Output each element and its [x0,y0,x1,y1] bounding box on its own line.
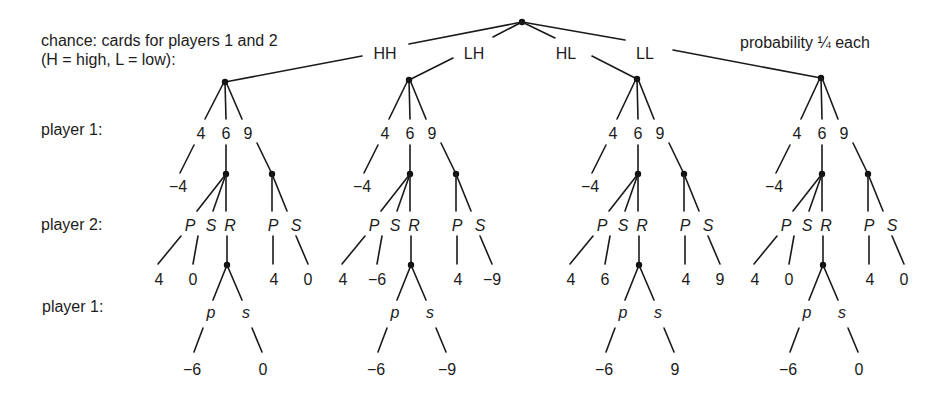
edge-9-S [684,174,699,211]
payoff-label: 6 [601,271,610,288]
move-label-R: R [408,217,420,234]
edge-p-payoff [606,328,615,352]
payoff-label: 4 [682,271,691,288]
move-label-P: P [369,217,380,234]
chance-label-line1: chance: cards for players 1 and 2 [41,32,278,49]
edge-S-payoff [789,236,794,264]
payoff-label: 4 [155,271,164,288]
move-label-P: P [452,217,463,234]
row-label-player1-bottom: player 1: [42,298,103,315]
payoff-label: −9 [483,271,501,288]
edge-P-payoff [158,236,181,264]
edge-P-payoff [570,236,593,264]
probability-label: probability ¼ each [740,34,870,51]
payoff-label: 4 [339,271,348,288]
edge-6-P [381,174,410,211]
move-label-P: P [185,217,196,234]
subtree-0: 469−4PSRPS4040ps−60 [155,79,313,378]
move-label-s: s [654,304,662,321]
payoff-label: −4 [169,178,187,195]
move-label-p: p [618,304,628,321]
edge-bid-6 [225,82,226,119]
game-tree-diagram: chance: cards for players 1 and 2 (H = h… [0,0,945,398]
move-label-4: 4 [793,125,802,142]
payoff-label: −6 [779,361,797,378]
move-label-6: 6 [222,125,231,142]
edge-bid-9 [822,78,838,119]
move-label-S: S [475,217,486,234]
edge-chance-ll-upper [522,22,625,40]
move-label-S: S [206,217,217,234]
payoff-label: −6 [595,361,613,378]
edge-bid-6 [821,78,822,119]
edge-P-payoff [754,236,777,264]
move-label-R: R [820,217,832,234]
move-label-S: S [390,217,401,234]
edge-6-S [397,174,410,211]
payoff-label: 4 [567,271,576,288]
edge-S-payoff [480,236,492,264]
move-label-p: p [206,304,216,321]
move-label-R: R [224,217,236,234]
edge-S-payoff [193,236,198,264]
edge-p-payoff [790,328,799,352]
edge-p-payoff [194,328,203,352]
payoff-label: 4 [270,271,279,288]
payoff-label: 4 [454,271,463,288]
move-label-p: p [802,304,812,321]
edge-chance-ll-lower [673,50,821,78]
chance-label-line2: (H = high, L = low): [41,51,176,68]
edge-bid-4 [617,79,636,119]
move-label-P: P [781,217,792,234]
move-label-6: 6 [406,125,415,142]
edge-9-to-node [441,143,456,174]
edge-bid-4 [801,78,820,119]
row-label-player1-top: player 1: [41,121,102,138]
payoff-label: 9 [671,361,680,378]
edge-to-payoff-4 [776,145,790,173]
move-label-4: 4 [381,125,390,142]
payoff-label: 0 [259,361,268,378]
edge-6-P [197,174,226,211]
move-label-9: 9 [428,125,437,142]
edge-chance-hh-lower [225,56,362,82]
move-label-S: S [802,217,813,234]
deal-label-ll: LL [636,45,654,62]
move-label-s: s [426,304,434,321]
payoff-label: −9 [438,361,456,378]
edge-chance-hl-lower [592,56,637,79]
edge-P-payoff [342,236,365,264]
edge-s-payoff [436,328,446,352]
edge-s-payoff [252,328,262,352]
edge-R-s [227,265,242,300]
edge-chance-hh-upper [409,22,522,44]
move-label-4: 4 [609,125,618,142]
edge-bid-9 [226,82,242,119]
move-label-9: 9 [244,125,253,142]
edge-R-p [213,265,227,300]
payoff-label: −6 [368,271,386,288]
payoff-label: 4 [751,271,760,288]
edge-R-p [397,265,411,300]
move-label-9: 9 [656,125,665,142]
edge-R-s [823,265,838,300]
edge-bid-4 [205,82,224,119]
move-label-6: 6 [634,125,643,142]
edge-to-payoff-4 [592,145,606,173]
subtree-1: 469−4PSRPS4−64−9ps−6−9 [339,77,502,378]
edge-6-S [809,174,822,211]
move-label-4: 4 [197,125,206,142]
edge-p-payoff [378,328,387,352]
payoff-label: 0 [785,271,794,288]
move-label-P: P [864,217,875,234]
deal-label-lh: LH [464,45,484,62]
edge-6-S [625,174,638,211]
move-label-s: s [242,304,250,321]
payoff-label: −6 [367,361,385,378]
edge-9-S [272,174,287,211]
payoff-label: 0 [855,361,864,378]
edge-bid-9 [410,80,426,119]
deal-label-hl: HL [556,45,577,62]
move-label-P: P [680,217,691,234]
edge-s-payoff [664,328,674,352]
